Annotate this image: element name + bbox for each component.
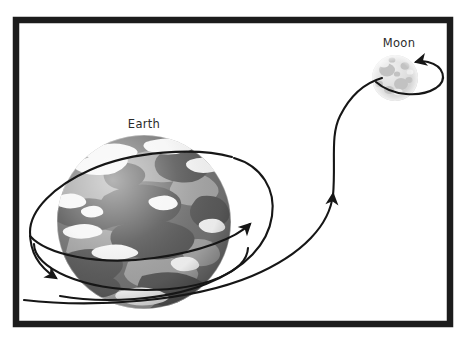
orbit-diagram-svg: Earth Moon bbox=[0, 0, 470, 347]
earth-label: Earth bbox=[128, 117, 160, 131]
moon-label: Moon bbox=[383, 36, 415, 50]
diagram-canvas: Earth Moon bbox=[0, 0, 470, 347]
